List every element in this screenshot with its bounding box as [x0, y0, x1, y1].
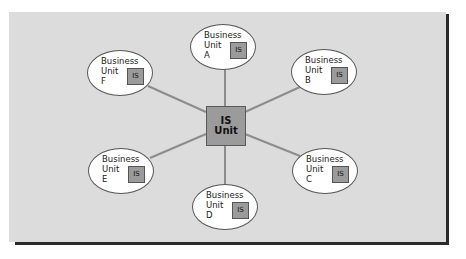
business-unit-c: Business Unit C IS	[292, 148, 358, 194]
is-unit-hub: IS Unit	[206, 106, 246, 146]
hub-label-line2: Unit	[214, 126, 237, 136]
is-badge: IS	[128, 166, 145, 183]
business-unit-a: Business Unit A IS	[190, 24, 256, 70]
connector-b	[245, 87, 300, 112]
is-badge: IS	[332, 166, 349, 183]
business-unit-b: Business Unit B IS	[291, 49, 357, 95]
unit-label-line1: Business	[206, 190, 243, 200]
unit-label-line1: Business	[306, 154, 343, 164]
unit-label-line1: Business	[101, 56, 138, 66]
is-badge: IS	[331, 67, 348, 84]
connector-f	[148, 86, 206, 112]
business-unit-d: Business Unit D IS	[192, 184, 258, 230]
is-badge: IS	[127, 68, 144, 85]
connector-c	[245, 134, 300, 156]
connector-e	[150, 134, 206, 158]
is-badge: IS	[232, 202, 249, 219]
business-unit-f: Business Unit F IS	[87, 50, 153, 96]
unit-label-line1: Business	[305, 55, 342, 65]
is-badge: IS	[230, 42, 247, 59]
unit-label-line1: Business	[204, 30, 241, 40]
unit-label-line1: Business	[102, 154, 139, 164]
business-unit-e: Business Unit E IS	[88, 148, 154, 194]
